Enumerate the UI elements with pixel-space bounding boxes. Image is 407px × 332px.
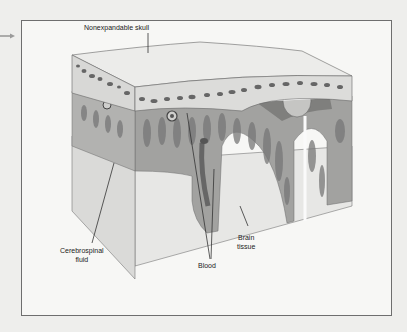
- figure-panel: Nonexpandable skull Cerebrospinal fluid …: [21, 20, 392, 316]
- label-brain-line1: Brain: [237, 234, 255, 243]
- label-brain-tissue: Brain tissue: [237, 234, 255, 251]
- label-blood: Blood: [198, 262, 216, 271]
- label-nonexpandable-skull: Nonexpandable skull: [84, 24, 149, 33]
- arrow-indicator-icon: [0, 33, 16, 39]
- label-cerebrospinal-fluid: Cerebrospinal fluid: [60, 247, 104, 264]
- label-csf-line2: fluid: [60, 256, 104, 265]
- brain-skull-illustration: [22, 21, 393, 317]
- label-brain-line2: tissue: [237, 243, 255, 252]
- label-csf-line1: Cerebrospinal: [60, 247, 104, 256]
